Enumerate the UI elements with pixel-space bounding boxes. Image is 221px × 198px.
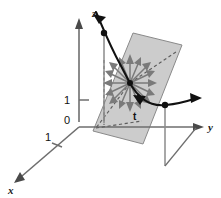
trajectory-arrowhead-top bbox=[93, 14, 106, 24]
trajectory-point-upper bbox=[101, 30, 107, 36]
projection-line-right bbox=[165, 128, 196, 166]
x-tick-label-1: 1 bbox=[45, 131, 51, 143]
origin-label: 0 bbox=[64, 114, 70, 126]
trajectory-point-right bbox=[162, 102, 168, 108]
trajectory-arrowhead-right bbox=[190, 93, 202, 103]
y-axis-label: y bbox=[206, 121, 213, 133]
figure-container: z y x 1 0 1 bbox=[0, 0, 221, 198]
arrow-up-icon bbox=[75, 18, 83, 29]
z-tick-label-1: 1 bbox=[64, 94, 70, 106]
x-axis-label: x bbox=[7, 184, 14, 196]
arrow-down-left-icon bbox=[14, 172, 25, 183]
phase-portrait-svg: z y x 1 0 1 bbox=[0, 0, 221, 198]
